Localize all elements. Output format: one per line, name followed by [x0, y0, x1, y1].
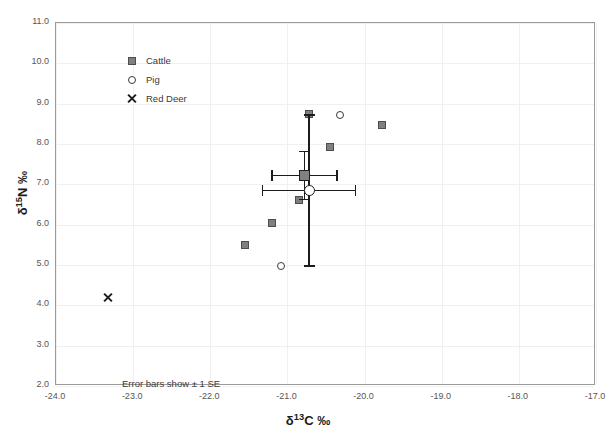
- gridline-vertical: [287, 23, 288, 384]
- legend-marker-cross-x-icon: [122, 92, 142, 106]
- data-point-pig: [336, 111, 344, 119]
- gridline-horizontal: [56, 23, 594, 24]
- y-axis-title-tail: N ‰: [15, 171, 30, 197]
- y-axis-title-delta: δ: [15, 207, 30, 215]
- y-axis-title-superscript: 15: [14, 197, 24, 207]
- legend-glyph: [127, 93, 138, 104]
- y-axis-tick-label: 5.0: [15, 258, 49, 268]
- mean-marker-cattle: [299, 170, 310, 181]
- legend-glyph: [128, 76, 136, 84]
- error-bar-cap-left-cattle: [271, 170, 273, 181]
- x-axis-tick-label: -18.0: [498, 391, 538, 401]
- x-axis-tick-label: -24.0: [35, 391, 75, 401]
- y-axis-tick-label: 3.0: [15, 339, 49, 349]
- data-point-cattle: [378, 121, 386, 129]
- x-axis-tick-label: -19.0: [421, 391, 461, 401]
- x-axis-title-superscript: 13: [294, 412, 304, 422]
- gridline-horizontal: [56, 225, 594, 226]
- x-axis-tick-label: -17.0: [575, 391, 615, 401]
- gridline-horizontal: [56, 305, 594, 306]
- data-point-cattle: [326, 143, 334, 151]
- legend-marker-open-circle-icon: [122, 73, 142, 87]
- legend-label: Cattle: [146, 55, 171, 66]
- data-point-cattle: [241, 241, 249, 249]
- mean-marker-pig: [304, 185, 315, 196]
- error-bar-cap-right-cattle: [336, 170, 338, 181]
- plot-area: CattlePigRed Deer Error bars show ± 1 SE: [55, 22, 595, 385]
- legend-item-red-deer: Red Deer: [122, 89, 218, 108]
- y-axis-tick-label: 4.0: [15, 298, 49, 308]
- gridline-vertical: [365, 23, 366, 384]
- x-axis-title-delta: δ: [286, 413, 294, 428]
- x-axis-tick-label: -22.0: [189, 391, 229, 401]
- error-bar-cap-upper-pig: [304, 114, 315, 116]
- gridline-horizontal: [56, 184, 594, 185]
- x-axis-title-tail: C ‰: [304, 413, 330, 428]
- legend-label: Pig: [146, 74, 160, 85]
- data-point-cattle: [268, 219, 276, 227]
- y-axis-tick-label: 2.0: [15, 379, 49, 389]
- legend-label: Red Deer: [146, 93, 187, 104]
- scatter-chart-figure: CattlePigRed Deer Error bars show ± 1 SE…: [0, 0, 616, 441]
- x-axis-tick-label: -21.0: [266, 391, 306, 401]
- error-bar-annotation: Error bars show ± 1 SE: [122, 378, 220, 389]
- y-axis-tick-label: 9.0: [15, 97, 49, 107]
- legend-item-pig: Pig: [122, 70, 218, 89]
- y-axis-title: δ15N ‰: [14, 138, 30, 248]
- legend-glyph: [128, 57, 136, 65]
- legend-marker-filled-square-icon: [122, 54, 142, 68]
- gridline-vertical: [442, 23, 443, 384]
- chart-legend: CattlePigRed Deer: [122, 51, 218, 108]
- x-axis-tick-label: -23.0: [112, 391, 152, 401]
- error-bar-cap-lower-pig: [304, 265, 315, 267]
- x-axis-title: δ13C ‰: [0, 412, 616, 428]
- y-axis-tick-label: 10.0: [15, 56, 49, 66]
- data-point-pig: [277, 262, 285, 270]
- x-axis-tick-label: -20.0: [344, 391, 384, 401]
- gridline-vertical: [56, 23, 57, 384]
- gridline-horizontal: [56, 265, 594, 266]
- gridline-vertical: [596, 23, 597, 384]
- error-bar-cap-right-pig: [355, 185, 357, 196]
- y-axis-tick-label: 11.0: [15, 16, 49, 26]
- legend-item-cattle: Cattle: [122, 51, 218, 70]
- error-bar-cap-left-pig: [262, 185, 264, 196]
- gridline-vertical: [519, 23, 520, 384]
- data-point-red-deer: [102, 292, 113, 303]
- gridline-horizontal: [56, 346, 594, 347]
